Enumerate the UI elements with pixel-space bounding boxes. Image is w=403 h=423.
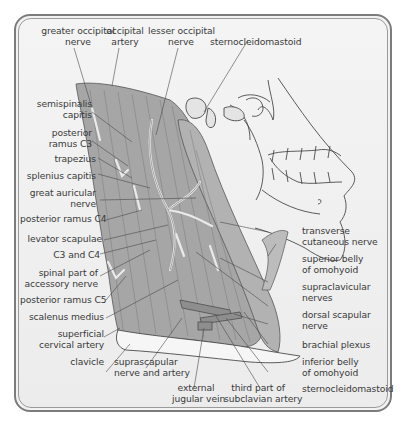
label-line: jugular vein xyxy=(172,394,220,405)
mastoid-region xyxy=(186,98,244,128)
label-line: cervical artery xyxy=(20,340,104,351)
label-trapezius: trapezius xyxy=(20,154,96,165)
label-line: artery xyxy=(102,37,148,48)
label-sternocleidomastoid-top: sternocleidomastoid xyxy=(210,37,301,48)
label-line: lesser occipital xyxy=(148,26,214,37)
label-posterior-ramus-c4: posterior ramus C4 xyxy=(20,214,104,225)
label-line: occipital xyxy=(102,26,148,37)
label-dorsal-scapular-nerve: dorsal scapular nerve xyxy=(302,310,371,331)
label-line: superior belly xyxy=(302,254,363,265)
label-line: posterior ramus C4 xyxy=(20,214,104,225)
label-line: brachial plexus xyxy=(302,340,370,351)
label-posterior-ramus-c5: posterior ramus C5 xyxy=(20,295,104,306)
label-line: scalenus medius xyxy=(20,312,104,323)
label-line: spinal part of xyxy=(20,268,98,279)
label-external-jugular-vein: external jugular vein xyxy=(172,383,220,404)
label-line: transverse xyxy=(302,226,378,237)
label-line: posterior ramus C5 xyxy=(20,295,104,306)
label-line: dorsal scapular xyxy=(302,310,371,321)
label-line: great auricular xyxy=(20,188,96,199)
label-splenius-capitis: splenius capitis xyxy=(20,171,96,182)
label-line: sternocleidomastoid xyxy=(210,37,301,48)
label-line: inferior belly xyxy=(302,357,359,368)
label-c3-and-c4: C3 and C4 xyxy=(20,250,100,261)
label-posterior-ramus-c3: posterior ramus C3 xyxy=(20,128,92,149)
label-line: external xyxy=(172,383,220,394)
label-suprascapular-nerve-artery: suprascapular nerve and artery xyxy=(114,357,176,378)
label-superior-belly-omohyoid: superior belly of omohyoid xyxy=(302,254,363,275)
label-line: C3 and C4 xyxy=(20,250,100,261)
label-line: suprascapular xyxy=(114,357,176,368)
label-line: trapezius xyxy=(20,154,96,165)
label-clavicle: clavicle xyxy=(20,357,104,368)
label-line: third part of xyxy=(224,383,292,394)
label-brachial-plexus: brachial plexus xyxy=(302,340,370,351)
label-inferior-belly-omohyoid: inferior belly of omohyoid xyxy=(302,357,359,378)
label-line: splenius capitis xyxy=(20,171,96,182)
label-sternocleidomastoid-bottom: sternocleidomastoid xyxy=(302,384,393,395)
label-line: of omohyoid xyxy=(302,265,363,276)
label-line: nerves xyxy=(302,293,370,304)
label-levator-scapulae: levator scapulae xyxy=(20,234,102,245)
label-line: sternocleidomastoid xyxy=(302,384,393,395)
label-line: superficial xyxy=(20,329,104,340)
label-line: clavicle xyxy=(20,357,104,368)
label-line: ramus C3 xyxy=(20,139,92,150)
label-line: nerve and artery xyxy=(114,368,176,379)
label-line: of omohyoid xyxy=(302,368,359,379)
label-line: nerve xyxy=(20,199,96,210)
label-spinal-part-accessory-nerve: spinal part of accessory nerve xyxy=(20,268,98,289)
label-supraclavicular-nerves: supraclavicular nerves xyxy=(302,282,370,303)
label-line: cutaneous nerve xyxy=(302,237,378,248)
label-superficial-cervical-artery: superficial cervical artery xyxy=(20,329,104,350)
label-occipital-artery: occipital artery xyxy=(102,26,148,47)
label-line: semispinalis xyxy=(20,99,92,110)
label-semispinalis-capitis: semispinalis capitis xyxy=(20,99,92,120)
label-line: nerve xyxy=(302,321,371,332)
label-line: levator scapulae xyxy=(20,234,102,245)
label-line: capitis xyxy=(20,110,92,121)
label-lesser-occipital-nerve: lesser occipital nerve xyxy=(148,26,214,47)
label-line: accessory nerve xyxy=(20,279,98,290)
label-transverse-cutaneous-nerve: transverse cutaneous nerve xyxy=(302,226,378,247)
label-line: supraclavicular xyxy=(302,282,370,293)
label-line: nerve xyxy=(148,37,214,48)
label-line: subclavian artery xyxy=(224,394,292,405)
label-scalenus-medius: scalenus medius xyxy=(20,312,104,323)
label-great-auricular-nerve: great auricular nerve xyxy=(20,188,96,209)
label-third-part-subclavian-artery: third part of subclavian artery xyxy=(224,383,292,404)
label-line: posterior xyxy=(20,128,92,139)
